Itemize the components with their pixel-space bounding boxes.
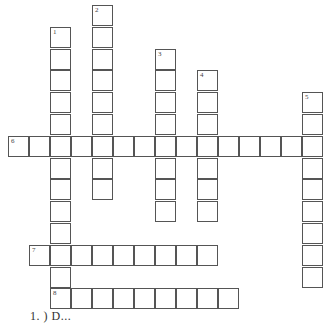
clue-number: 7 [32,246,36,254]
crossword-cell[interactable] [92,245,113,266]
crossword-cell[interactable] [71,245,92,266]
crossword-cell[interactable]: 2 [92,5,113,26]
crossword-cell[interactable] [50,158,71,179]
crossword-cell[interactable] [155,92,176,113]
crossword-cell[interactable] [197,288,218,309]
crossword-cell[interactable] [155,245,176,266]
crossword-cell[interactable] [71,288,92,309]
crossword-cell[interactable]: 8 [50,288,71,309]
clue-number: 1 [53,28,57,36]
crossword-cell[interactable] [197,92,218,113]
crossword-cell[interactable] [134,136,155,157]
crossword-cell[interactable] [155,114,176,135]
crossword-cell[interactable] [197,158,218,179]
clue-number: 3 [158,50,162,58]
crossword-cell[interactable] [176,245,197,266]
crossword-cell[interactable] [92,70,113,91]
crossword-cell[interactable] [113,288,134,309]
clue-text-partial: 1. ) D... [30,309,71,323]
crossword-cell[interactable]: 3 [155,49,176,70]
crossword-cell[interactable] [176,136,197,157]
crossword-cell[interactable] [92,27,113,48]
crossword-cell[interactable] [92,49,113,70]
crossword-cell[interactable] [302,245,323,266]
crossword-cell[interactable] [260,136,281,157]
crossword-cell[interactable] [302,158,323,179]
crossword-cell[interactable] [302,114,323,135]
crossword-cell[interactable] [29,136,50,157]
crossword-cell[interactable] [134,245,155,266]
crossword-cell[interactable] [50,201,71,222]
crossword-cell[interactable] [50,136,71,157]
crossword-cell[interactable] [92,92,113,113]
clue-number: 8 [53,289,57,297]
clue-number: 4 [200,71,204,79]
crossword-cell[interactable] [113,136,134,157]
crossword-cell[interactable] [197,114,218,135]
crossword-cell[interactable] [155,201,176,222]
crossword-cell[interactable] [155,288,176,309]
crossword-cell[interactable] [197,136,218,157]
crossword-cell[interactable] [92,114,113,135]
crossword-cell[interactable] [50,245,71,266]
crossword-cell[interactable] [218,288,239,309]
clue-number: 5 [305,93,309,101]
crossword-cell[interactable] [92,136,113,157]
crossword-cell[interactable] [155,179,176,200]
crossword-cell[interactable] [302,136,323,157]
crossword-cell[interactable] [302,201,323,222]
crossword-cell[interactable] [281,136,302,157]
crossword-cell[interactable] [50,114,71,135]
crossword-cell[interactable] [197,179,218,200]
crossword-cell[interactable]: 1 [50,27,71,48]
crossword-cell[interactable] [50,70,71,91]
clue-number: 2 [95,6,99,14]
crossword-cell[interactable] [302,179,323,200]
crossword-cell[interactable] [176,288,197,309]
crossword-cell[interactable] [155,70,176,91]
crossword-cell[interactable] [197,201,218,222]
crossword-cell[interactable] [155,158,176,179]
crossword-cell[interactable] [92,158,113,179]
crossword-cell[interactable] [50,223,71,244]
crossword-cell[interactable] [50,179,71,200]
crossword-cell[interactable] [71,136,92,157]
crossword-cell[interactable] [155,136,176,157]
crossword-cell[interactable] [50,92,71,113]
crossword-cell[interactable] [302,223,323,244]
crossword-cell[interactable] [113,245,134,266]
crossword-cell[interactable] [302,267,323,288]
crossword-cell[interactable] [218,136,239,157]
crossword-cell[interactable] [50,49,71,70]
crossword-cell[interactable] [239,136,260,157]
crossword-cell[interactable]: 7 [29,245,50,266]
crossword-cell[interactable] [134,288,155,309]
crossword-cell[interactable]: 5 [302,92,323,113]
clue-number: 6 [11,137,15,145]
crossword-cell[interactable] [50,267,71,288]
crossword-cell[interactable]: 4 [197,70,218,91]
crossword-cell[interactable] [197,245,218,266]
crossword-cell[interactable] [92,179,113,200]
crossword-cell[interactable]: 6 [8,136,29,157]
crossword-cell[interactable] [92,288,113,309]
